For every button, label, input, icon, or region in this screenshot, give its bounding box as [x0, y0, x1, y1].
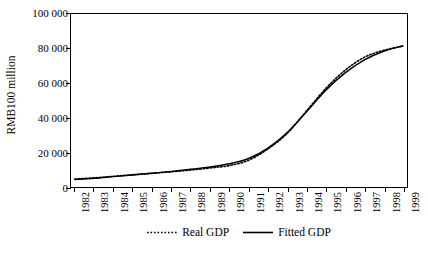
x-axis-tick-label-text: 1982 [80, 192, 91, 213]
y-axis-tick-labels: 020 00040 00060 00080 000100 000 [18, 0, 68, 195]
x-axis-tick-label-text: 1986 [157, 192, 168, 213]
x-axis-tick-label-text: 1998 [390, 192, 401, 213]
x-axis-tick-label: 1988 [190, 182, 201, 203]
x-axis-tick-label: 1984 [113, 182, 124, 203]
chart-legend: Real GDPFitted GDP [70, 222, 408, 242]
x-axis-tick-label-text: 1988 [196, 192, 207, 213]
x-axis-tick-label-text: 1995 [332, 192, 343, 213]
x-axis-tick-label: 1995 [326, 182, 337, 203]
x-axis-tick-label-text: 1992 [274, 192, 285, 213]
series-line-fitted-gdp [75, 46, 403, 180]
x-axis-tick-label: 1991 [249, 182, 260, 203]
x-axis-tick-label-text: 1985 [138, 192, 149, 213]
x-axis-tick-label-text: 1984 [118, 192, 129, 213]
x-axis-tick-label: 1985 [132, 182, 143, 203]
x-axis-tick-label-text: 1991 [254, 192, 265, 213]
x-axis-tick-label: 1989 [210, 182, 221, 203]
x-axis-tick-label: 1986 [152, 182, 163, 203]
x-axis-tick-label-text: 1983 [99, 192, 110, 213]
x-axis-tick-label-text: 1997 [371, 192, 382, 213]
x-axis-tick-label-text: 1999 [410, 192, 421, 213]
x-axis-tick-label: 1998 [385, 182, 396, 203]
x-axis-tick-label-text: 1990 [235, 192, 246, 213]
x-axis-tick-label: 1996 [346, 182, 357, 203]
x-axis-tick-label: 1992 [268, 182, 279, 203]
plot-area [70, 13, 408, 188]
y-axis-title-text: RMB100 million [5, 56, 17, 135]
x-axis-tick-label: 1994 [307, 182, 318, 203]
solid-line-icon [243, 229, 273, 236]
legend-label: Fitted GDP [278, 226, 331, 238]
x-axis-tick-label: 1993 [288, 182, 299, 203]
x-axis-tick-label: 1983 [93, 182, 104, 203]
dotted-line-icon [147, 229, 177, 236]
legend-item-real-gdp: Real GDP [147, 226, 229, 238]
legend-item-fitted-gdp: Fitted GDP [243, 226, 331, 238]
x-axis-tick-labels: 1982198319841985198619871988198919901991… [70, 192, 408, 224]
x-axis-tick-label-text: 1993 [293, 192, 304, 213]
x-axis-tick-label-text: 1996 [351, 192, 362, 213]
x-axis-tick-label: 1990 [229, 182, 240, 203]
plot-svg [71, 14, 407, 187]
x-axis-tick-label: 1999 [404, 182, 415, 203]
x-axis-tick-label-text: 1989 [215, 192, 226, 213]
x-axis-tick-label: 1997 [365, 182, 376, 203]
legend-label: Real GDP [182, 226, 229, 238]
x-axis-tick-label: 1987 [171, 182, 182, 203]
x-axis-tick-label: 1982 [74, 182, 85, 203]
x-axis-tick-label-text: 1987 [177, 192, 188, 213]
x-axis-tick-label-text: 1994 [312, 192, 323, 213]
gdp-line-chart: RMB100 million 020 00040 00060 00080 000… [0, 0, 428, 255]
